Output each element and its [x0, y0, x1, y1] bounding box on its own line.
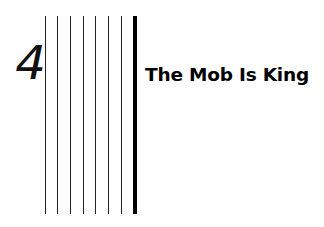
thin-rule — [45, 16, 46, 214]
thin-rule — [70, 16, 71, 214]
thin-rule — [95, 16, 96, 214]
chapter-number: 4 — [15, 40, 46, 86]
thin-rule — [121, 16, 122, 214]
chapter-title: The Mob Is King — [145, 64, 309, 85]
thin-rule — [57, 16, 58, 214]
thin-rule — [108, 16, 109, 214]
thick-rule — [133, 16, 137, 214]
thin-rule — [83, 16, 84, 214]
